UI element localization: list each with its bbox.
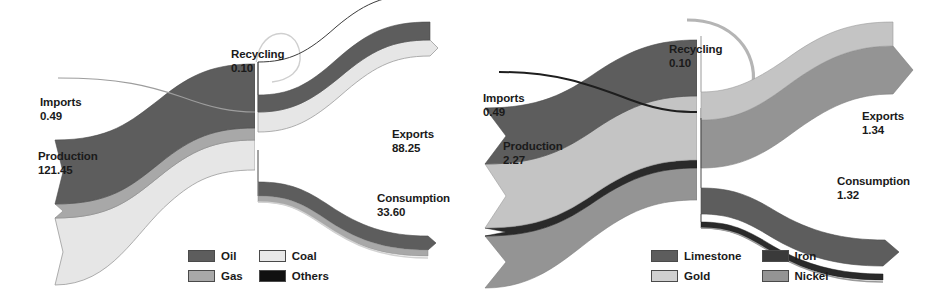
legend-label-oil: Oil xyxy=(221,250,236,262)
node-label-production-text: Production xyxy=(503,140,563,152)
legend-item-gas: Gas xyxy=(188,270,243,282)
node-label-production: Production 2.27 xyxy=(503,140,563,167)
legend-item-others: Others xyxy=(259,270,329,282)
energy-legend: Oil Coal Gas Others xyxy=(188,250,329,282)
minerals-legend: Limestone Iron Gold Nickel xyxy=(651,250,828,282)
legend-label-iron: Iron xyxy=(795,250,817,262)
node-label-exports-text: Exports xyxy=(392,128,434,140)
node-label-recycling-text: Recycling xyxy=(231,48,284,60)
legend-label-nickel: Nickel xyxy=(795,270,829,282)
legend-item-iron: Iron xyxy=(762,250,829,262)
node-label-imports-text: Imports xyxy=(40,96,81,108)
legend-label-gas: Gas xyxy=(221,270,243,282)
node-label-consumption-value: 33.60 xyxy=(377,206,450,220)
sankey-figure: Imports 0.49 Production 121.45 Recycling… xyxy=(0,0,945,305)
node-label-production-value: 2.27 xyxy=(503,154,563,168)
node-label-exports: Exports 88.25 xyxy=(392,128,434,155)
legend-swatch-coal xyxy=(259,250,286,262)
node-label-imports: Imports 0.49 xyxy=(40,96,81,123)
legend-swatch-gold xyxy=(651,270,678,282)
legend-item-limestone: Limestone xyxy=(651,250,742,262)
node-label-imports-text: Imports xyxy=(483,92,524,104)
legend-item-nickel: Nickel xyxy=(762,270,829,282)
legend-swatch-iron xyxy=(762,250,789,262)
legend-swatch-gas xyxy=(188,270,215,282)
node-label-imports-value: 0.49 xyxy=(40,110,81,124)
node-label-imports-value: 0.49 xyxy=(483,106,524,120)
node-label-recycling: Recycling 0.10 xyxy=(669,43,722,70)
node-label-consumption-text: Consumption xyxy=(837,175,910,187)
junction-divider xyxy=(255,62,258,182)
node-label-production-text: Production xyxy=(38,150,98,162)
legend-item-gold: Gold xyxy=(651,270,742,282)
legend-swatch-oil xyxy=(188,250,215,262)
node-label-recycling-text: Recycling xyxy=(669,43,722,55)
node-label-consumption: Consumption 33.60 xyxy=(377,192,450,219)
legend-swatch-others xyxy=(259,270,286,282)
legend-item-coal: Coal xyxy=(259,250,329,262)
legend-label-limestone: Limestone xyxy=(684,250,742,262)
node-label-consumption-value: 1.32 xyxy=(837,189,910,203)
node-label-production-value: 121.45 xyxy=(38,164,98,178)
node-label-recycling: Recycling 0.10 xyxy=(231,48,284,75)
node-label-exports-value: 1.34 xyxy=(862,124,904,138)
node-label-exports-value: 88.25 xyxy=(392,142,434,156)
node-label-consumption-text: Consumption xyxy=(377,192,450,204)
legend-label-gold: Gold xyxy=(684,270,710,282)
node-label-exports-text: Exports xyxy=(862,110,904,122)
legend-label-others: Others xyxy=(292,270,329,282)
node-label-recycling-value: 0.10 xyxy=(231,62,284,76)
node-label-consumption: Consumption 1.32 xyxy=(837,175,910,202)
node-label-exports: Exports 1.34 xyxy=(862,110,904,137)
node-label-production: Production 121.45 xyxy=(38,150,98,177)
node-label-recycling-value: 0.10 xyxy=(669,57,722,71)
legend-swatch-limestone xyxy=(651,250,678,262)
legend-swatch-nickel xyxy=(762,270,789,282)
legend-label-coal: Coal xyxy=(292,250,317,262)
node-label-imports: Imports 0.49 xyxy=(483,92,524,119)
legend-item-oil: Oil xyxy=(188,250,243,262)
